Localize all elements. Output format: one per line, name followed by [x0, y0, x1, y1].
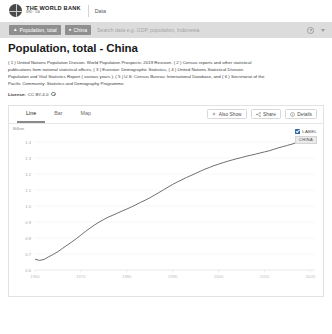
brand-name-secondary: IBRD · IDA [26, 12, 81, 15]
svg-text:2000: 2000 [214, 274, 224, 279]
also-show-button[interactable]: Also Show [207, 109, 246, 119]
svg-text:1960: 1960 [30, 274, 40, 279]
svg-text:2020: 2020 [306, 274, 316, 279]
svg-text:1.0: 1.0 [25, 203, 31, 208]
page-body: Population, total - China ( 1 ) United N… [0, 42, 332, 297]
svg-text:1970: 1970 [76, 274, 86, 279]
chart-card: Line Bar Map Also Show [8, 105, 324, 297]
description-line: publications from national statistical o… [8, 66, 324, 73]
svg-text:1980: 1980 [122, 274, 132, 279]
svg-text:1.1: 1.1 [25, 187, 31, 192]
share-icon [256, 112, 261, 117]
details-button[interactable]: Details [285, 109, 317, 119]
y-axis-unit-label: Billion [13, 126, 24, 131]
svg-text:1.2: 1.2 [25, 171, 31, 176]
plus-icon [212, 112, 216, 116]
license-value[interactable]: CC BY-4.0 [28, 92, 49, 97]
chart-legend: LABEL CHINA [295, 129, 317, 145]
info-icon [290, 112, 295, 117]
chart-area[interactable]: Billion 1.41.31.21.11.00.90.80.70.6 1960… [9, 124, 323, 296]
svg-text:1.4: 1.4 [25, 139, 31, 144]
svg-text:0.9: 0.9 [25, 219, 31, 224]
chart-y-tick-labels: 1.41.31.21.11.00.90.80.70.6 [25, 139, 31, 272]
info-icon[interactable] [51, 92, 56, 97]
chart-icon: ▲ [13, 28, 18, 33]
page-title: Population, total - China [8, 42, 324, 54]
tab-map[interactable]: Map [72, 106, 101, 123]
tab-bar[interactable]: Bar [45, 106, 71, 123]
share-button[interactable]: Share [251, 109, 281, 119]
details-label: Details [297, 112, 312, 117]
filter-pill-country-label: China [74, 27, 88, 33]
brand-divider [88, 5, 89, 17]
gear-icon[interactable] [307, 27, 314, 34]
series-tag-china[interactable]: CHINA [295, 136, 317, 145]
license-label: License: [8, 92, 26, 97]
svg-text:2010: 2010 [260, 274, 270, 279]
globe-icon [9, 4, 22, 17]
description-line: Pacific Community: Statistics and Demogr… [8, 80, 324, 87]
search-bar: ▲ Population, total ● China [0, 22, 332, 38]
chart-actions: Also Show Share [207, 106, 317, 123]
header-spacer [100, 106, 207, 123]
filter-pill-indicator-label: Population, total [20, 27, 57, 33]
chart-line-series-china [35, 140, 310, 260]
svg-text:0.7: 0.7 [25, 251, 31, 256]
share-label: Share [263, 112, 276, 117]
tab-line[interactable]: Line [17, 106, 45, 123]
license-row: License: CC BY-4.0 [8, 92, 324, 97]
nav-data-link[interactable]: Data [95, 8, 106, 14]
search-input[interactable] [95, 25, 303, 35]
svg-text:1990: 1990 [168, 274, 178, 279]
source-description: ( 1 ) United Nations Population Division… [8, 59, 324, 88]
brand-name[interactable]: THE WORLD BANK IBRD · IDA [26, 6, 81, 15]
svg-text:0.6: 0.6 [25, 267, 31, 272]
filter-pill-indicator[interactable]: ▲ Population, total [9, 25, 61, 35]
svg-text:1.3: 1.3 [25, 155, 31, 160]
filter-pill-country[interactable]: ● China [65, 25, 91, 35]
description-line: ( 1 ) United Nations Population Division… [8, 59, 324, 66]
line-chart[interactable]: 1.41.31.21.11.00.90.80.70.6 196019701980… [9, 124, 323, 296]
chart-card-header: Line Bar Map Also Show [9, 106, 323, 124]
brand-bar: THE WORLD BANK IBRD · IDA Data [0, 0, 332, 22]
chart-x-tick-labels: 1960197019801990200020102020 [30, 270, 315, 279]
also-show-label: Also Show [219, 112, 242, 117]
map-pin-icon: ● [69, 28, 72, 33]
chevron-down-icon[interactable] [321, 29, 325, 32]
chart-tabs: Line Bar Map [17, 106, 100, 123]
chart-gridlines [35, 142, 315, 270]
legend-label-toggle[interactable]: LABEL [295, 129, 317, 134]
legend-label-text: LABEL [302, 129, 317, 134]
svg-text:0.8: 0.8 [25, 235, 31, 240]
checkbox-checked-icon[interactable] [295, 129, 300, 134]
description-line: Population and Vital Statistics Report (… [8, 73, 324, 80]
